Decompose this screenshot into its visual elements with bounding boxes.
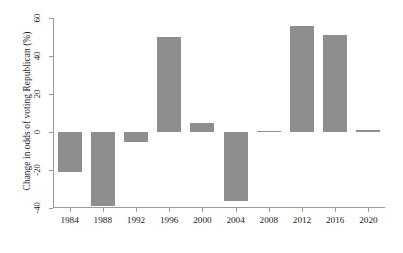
bar-2000 bbox=[190, 123, 214, 133]
y-tick-mark bbox=[49, 132, 53, 133]
y-axis-spine bbox=[53, 18, 54, 208]
y-tick-label: 20 bbox=[32, 84, 42, 104]
x-tick-mark bbox=[302, 208, 303, 212]
x-tick-mark bbox=[236, 208, 237, 212]
y-tick-label: -40 bbox=[32, 198, 42, 218]
bar-2012 bbox=[290, 26, 314, 132]
bar-1988 bbox=[91, 132, 115, 206]
y-axis-title: Change in odds of voting Republican (%) bbox=[22, 4, 32, 219]
bar-1992 bbox=[124, 132, 148, 142]
y-tick-label: 0 bbox=[32, 122, 42, 142]
bar-2004 bbox=[224, 132, 248, 201]
y-tick-mark bbox=[49, 94, 53, 95]
x-tick-mark bbox=[70, 208, 71, 212]
x-tick-label-2020: 2020 bbox=[346, 215, 390, 225]
y-tick-label: -20 bbox=[32, 160, 42, 180]
plot-area: -40-200204060 19841988199219962000200420… bbox=[53, 18, 385, 208]
x-tick-mark bbox=[368, 208, 369, 212]
bar-chart-figure: Change in odds of voting Republican (%) … bbox=[0, 0, 403, 253]
y-tick-label: 60 bbox=[32, 8, 42, 28]
y-tick-label: 40 bbox=[32, 46, 42, 66]
x-tick-mark bbox=[169, 208, 170, 212]
x-tick-mark bbox=[202, 208, 203, 212]
y-tick-mark bbox=[49, 18, 53, 19]
bar-2016 bbox=[323, 35, 347, 132]
y-tick-mark bbox=[49, 208, 53, 209]
y-tick-mark bbox=[49, 56, 53, 57]
x-tick-mark bbox=[335, 208, 336, 212]
bar-1996 bbox=[157, 37, 181, 132]
x-tick-mark bbox=[136, 208, 137, 212]
bar-1984 bbox=[58, 132, 82, 172]
x-tick-mark bbox=[103, 208, 104, 212]
bar-2020 bbox=[356, 130, 380, 132]
x-tick-mark bbox=[269, 208, 270, 212]
bar-2008 bbox=[257, 131, 281, 132]
y-tick-mark bbox=[49, 170, 53, 171]
